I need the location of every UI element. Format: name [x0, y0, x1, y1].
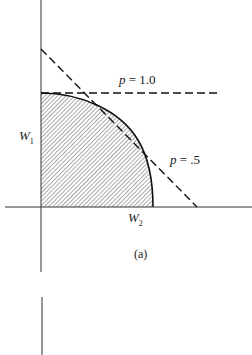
y-axis-label: W1: [19, 128, 34, 146]
figure-caption: (a): [134, 247, 147, 262]
x-axis-label: W2: [128, 210, 143, 228]
feasible-region: [41, 93, 153, 207]
diagram-canvas: [0, 0, 252, 355]
label-p-0-5: p = .5: [170, 152, 200, 168]
label-p-1-0: p = 1.0: [119, 72, 156, 88]
